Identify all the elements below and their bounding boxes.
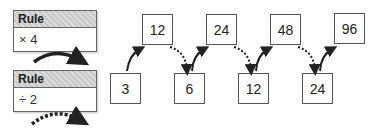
dashed-arrow-icon [32,114,80,124]
solid-arrow-icon [320,49,332,71]
dashed-arrow-icon [234,47,251,70]
solid-arrow-icon [34,53,80,62]
arrows-layer [0,0,374,128]
dashed-arrow-icon [170,47,187,70]
solid-arrow-icon [127,49,140,71]
solid-arrow-icon [256,49,268,71]
dashed-arrow-icon [298,47,315,70]
solid-arrow-icon [192,49,204,71]
